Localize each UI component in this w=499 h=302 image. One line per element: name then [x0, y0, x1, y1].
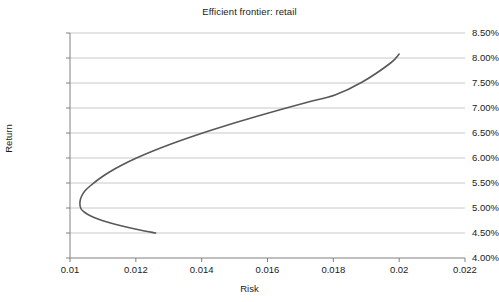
gridline-group — [70, 33, 465, 233]
y-tick-label: 8.00% — [441, 53, 499, 63]
x-tickmark-group — [70, 258, 465, 262]
x-axis-title: Risk — [0, 283, 499, 294]
y-tick-label: 7.00% — [441, 103, 499, 113]
x-tick-label: 0.018 — [303, 265, 363, 275]
efficient-frontier-chart: Efficient frontier: retail 4.00%4.50%5.0… — [0, 0, 499, 302]
y-tick-label: 6.00% — [441, 153, 499, 163]
y-axis-title: Return — [3, 109, 14, 169]
x-tick-label: 0.02 — [369, 265, 429, 275]
y-tick-label: 7.50% — [441, 78, 499, 88]
y-tick-label: 5.50% — [441, 178, 499, 188]
x-tick-label: 0.012 — [106, 265, 166, 275]
y-tick-label: 5.00% — [441, 203, 499, 213]
y-tickmark-group — [66, 33, 70, 258]
x-tick-label: 0.016 — [238, 265, 298, 275]
y-tick-label: 4.50% — [441, 228, 499, 238]
plot-canvas — [0, 0, 499, 302]
y-tick-label: 8.50% — [441, 28, 499, 38]
x-tick-label: 0.022 — [435, 265, 495, 275]
efficient-frontier-line — [80, 54, 399, 233]
x-tick-label: 0.01 — [40, 265, 100, 275]
y-tick-label: 6.50% — [441, 128, 499, 138]
x-tick-label: 0.014 — [172, 265, 232, 275]
y-tick-label: 4.00% — [441, 253, 499, 263]
